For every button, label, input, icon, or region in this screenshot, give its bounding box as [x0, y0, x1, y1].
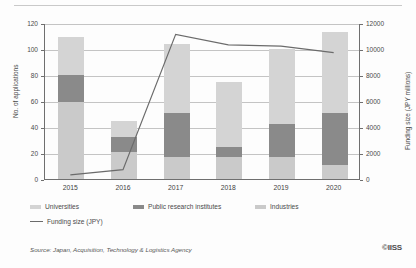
bar-segment-universities-2015	[58, 37, 84, 75]
bar-segment-public-research-institutes-2018	[216, 147, 242, 157]
y-axis-right-title: Funding size (JPY millions)	[404, 72, 411, 150]
y-tickmark-left	[41, 50, 44, 51]
y-tick-right-12000: 12000	[366, 20, 398, 27]
bar-segment-universities-2020	[322, 32, 348, 113]
bar-segment-industries-2017	[164, 157, 190, 179]
y-tickmark-right	[360, 180, 363, 181]
legend-label-funding-size: Funding size (JPY)	[47, 218, 103, 225]
x-tick-2019: 2019	[258, 184, 304, 191]
legend-item-industries[interactable]: Industries	[255, 203, 299, 210]
bar-segment-universities-2018	[216, 82, 242, 147]
y-tick-right-8000: 8000	[366, 72, 398, 79]
y-tick-left-80: 80	[12, 72, 38, 79]
y-tick-left-0: 0	[12, 176, 38, 183]
gridline	[45, 102, 359, 103]
legend-item-funding-size[interactable]: Funding size (JPY)	[30, 218, 103, 225]
bar-segment-public-research-institutes-2016	[111, 137, 137, 151]
y-tickmark-left	[41, 76, 44, 77]
legend-row-line: Funding size (JPY)	[30, 216, 390, 229]
gridline	[45, 128, 359, 129]
y-tickmark-right	[360, 76, 363, 77]
y-tick-left-60: 60	[12, 98, 38, 105]
bar-segment-public-research-institutes-2020	[322, 113, 348, 165]
y-tick-right-4000: 4000	[366, 124, 398, 131]
top-divider-rule	[14, 5, 402, 6]
bar-segment-industries-2019	[269, 157, 295, 179]
bar-segment-industries-2020	[322, 165, 348, 179]
bar-2017[interactable]	[164, 23, 190, 179]
iiss-logo: ©IISS	[382, 243, 402, 252]
y-tickmark-left	[41, 180, 44, 181]
bar-segment-industries-2015	[58, 102, 84, 179]
y-tickmark-right	[360, 50, 363, 51]
bar-segment-public-research-institutes-2017	[164, 113, 190, 157]
x-tick-2020: 2020	[311, 184, 357, 191]
source-note: Source: Japan, Acquisition, Technology &…	[30, 246, 192, 253]
legend-label-public-research-institutes: Public research institutes	[148, 203, 221, 210]
y-tick-right-10000: 10000	[366, 46, 398, 53]
y-tickmark-left	[41, 128, 44, 129]
plot-area	[44, 24, 360, 180]
bar-2019[interactable]	[269, 23, 295, 179]
y-tick-left-100: 100	[12, 46, 38, 53]
y-tickmark-left	[41, 154, 44, 155]
bar-2015[interactable]	[58, 23, 84, 179]
y-tick-right-6000: 6000	[366, 98, 398, 105]
legend-item-public-research-institutes[interactable]: Public research institutes	[133, 203, 221, 210]
y-tick-left-120: 120	[12, 20, 38, 27]
bar-2016[interactable]	[111, 23, 137, 179]
y-tick-right-2000: 2000	[366, 150, 398, 157]
bar-segment-industries-2016	[111, 152, 137, 179]
chart-legend: Universities Public research institutes …	[30, 203, 390, 229]
bar-2020[interactable]	[322, 23, 348, 179]
gridline	[45, 24, 359, 25]
chart-container: No. of applications Funding size (JPY mi…	[0, 0, 416, 268]
gridline	[45, 154, 359, 155]
bar-segment-universities-2017	[164, 44, 190, 113]
x-tick-2017: 2017	[153, 184, 199, 191]
y-tickmark-right	[360, 24, 363, 25]
y-tickmark-left	[41, 24, 44, 25]
y-tickmark-right	[360, 102, 363, 103]
gridline	[45, 76, 359, 77]
y-tick-right-0: 0	[366, 176, 398, 183]
legend-swatch-public-research-institutes	[133, 205, 144, 209]
bar-segment-industries-2018	[216, 157, 242, 179]
y-tickmark-right	[360, 128, 363, 129]
legend-row-series: Universities Public research institutes …	[30, 203, 390, 216]
bar-segment-universities-2019	[269, 49, 295, 124]
bar-segment-public-research-institutes-2015	[58, 75, 84, 102]
y-tickmark-right	[360, 154, 363, 155]
legend-swatch-industries	[255, 205, 266, 209]
bar-2018[interactable]	[216, 23, 242, 179]
legend-swatch-funding-size-line	[30, 221, 43, 222]
x-tick-2015: 2015	[47, 184, 93, 191]
legend-item-universities[interactable]: Universities	[30, 203, 79, 210]
y-tick-left-20: 20	[12, 150, 38, 157]
legend-label-industries: Industries	[270, 203, 299, 210]
gridline	[45, 50, 359, 51]
legend-label-universities: Universities	[45, 203, 79, 210]
bar-segment-public-research-institutes-2019	[269, 124, 295, 157]
x-tick-2018: 2018	[205, 184, 251, 191]
bar-segment-universities-2016	[111, 121, 137, 138]
y-tick-left-40: 40	[12, 124, 38, 131]
y-tickmark-left	[41, 102, 44, 103]
legend-swatch-universities	[30, 205, 41, 209]
x-tick-2016: 2016	[100, 184, 146, 191]
